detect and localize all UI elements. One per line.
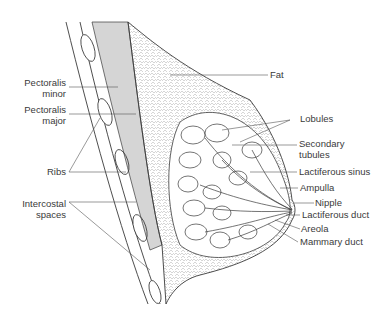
label-areola: Areola: [301, 223, 328, 234]
label-line: Areola: [301, 223, 328, 234]
label-secondary-tubules: Secondary tubules: [299, 138, 344, 160]
label-lactiferous-sinus: Lactiferous sinus: [299, 166, 370, 177]
label-line: Nipple: [315, 197, 342, 208]
label-intercostal-spaces: Intercostal spaces: [6, 198, 66, 220]
label-line: minor: [6, 88, 66, 99]
label-line: Lactiferous sinus: [299, 166, 370, 177]
label-line: Pectoralis: [6, 77, 66, 88]
label-ribs: Ribs: [6, 166, 66, 177]
label-line: Fat: [270, 69, 284, 80]
label-line: Lactiferous duct: [302, 209, 369, 220]
label-line: Ribs: [6, 166, 66, 177]
label-mammary-duct: Mammary duct: [300, 236, 363, 247]
label-line: tubules: [299, 149, 344, 160]
label-line: Pectoralis: [6, 104, 66, 115]
label-line: Secondary: [299, 138, 344, 149]
label-fat: Fat: [270, 69, 284, 80]
label-ampulla: Ampulla: [300, 182, 334, 193]
label-line: Intercostal: [6, 198, 66, 209]
label-line: spaces: [6, 209, 66, 220]
label-lobules: Lobules: [300, 113, 333, 124]
label-pectoralis-minor: Pectoralis minor: [6, 77, 66, 99]
label-lactiferous-duct: Lactiferous duct: [302, 209, 369, 220]
label-line: major: [6, 115, 66, 126]
label-nipple: Nipple: [315, 197, 342, 208]
label-pectoralis-major: Pectoralis major: [6, 104, 66, 126]
label-line: Lobules: [300, 113, 333, 124]
label-line: Ampulla: [300, 182, 334, 193]
label-line: Mammary duct: [300, 236, 363, 247]
